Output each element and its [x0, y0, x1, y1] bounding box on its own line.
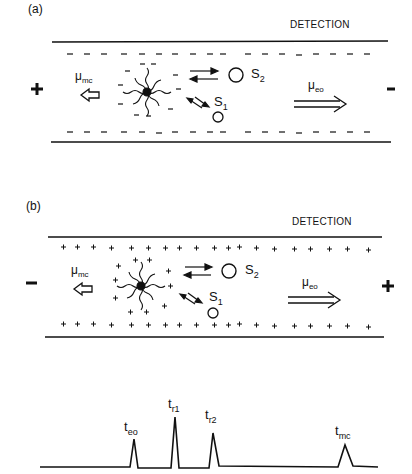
panel-a-micelle-icon	[123, 68, 171, 116]
panel-a-solute2-icon	[229, 68, 243, 82]
panel-b-equilibrium-arrows-icon	[180, 264, 212, 304]
panel-a-mu-mc-label: μmc	[75, 69, 93, 85]
peak-label-teo: teo	[124, 419, 138, 437]
panel-a-mu-eo-label: μeo	[308, 78, 324, 94]
diagram-graphics	[0, 0, 412, 474]
peak-label-tr2: tr2	[205, 407, 217, 425]
panel-b-micelle-icon	[117, 262, 165, 310]
panel-a-solute2-label: S2	[251, 66, 265, 84]
panel-a-solute1-icon	[213, 112, 223, 122]
peak-label-tr1: tr1	[168, 396, 180, 414]
panel-a-solute1-label: S1	[214, 94, 228, 112]
panel-b-mu-eo-label: μeo	[302, 275, 318, 291]
panel-b-mu-eo-arrow-icon	[288, 292, 340, 308]
panel-b-positive-pole-icon	[382, 280, 394, 292]
peak-label-tmc: tmc	[335, 423, 351, 441]
panel-a-mu-mc-arrow-icon	[81, 89, 99, 101]
panel-b-mu-mc-label: μmc	[71, 263, 89, 279]
panel-a-positive-pole-icon	[31, 83, 43, 95]
panel-b-solute2-icon	[222, 264, 236, 278]
panel-b-solute1-icon	[208, 308, 218, 318]
panel-b-mu-mc-arrow-icon	[74, 283, 92, 295]
electropherogram-trace	[40, 417, 378, 468]
panel-b-solute1-label: S1	[209, 289, 223, 307]
panel-b-label: (b)	[26, 199, 41, 213]
panel-a-mu-eo-arrow-icon	[294, 96, 346, 112]
panel-b-detection-label: DETECTION	[292, 216, 352, 227]
panel-a-top-wall	[52, 41, 388, 42]
panel-b-solute2-label: S2	[245, 262, 259, 280]
